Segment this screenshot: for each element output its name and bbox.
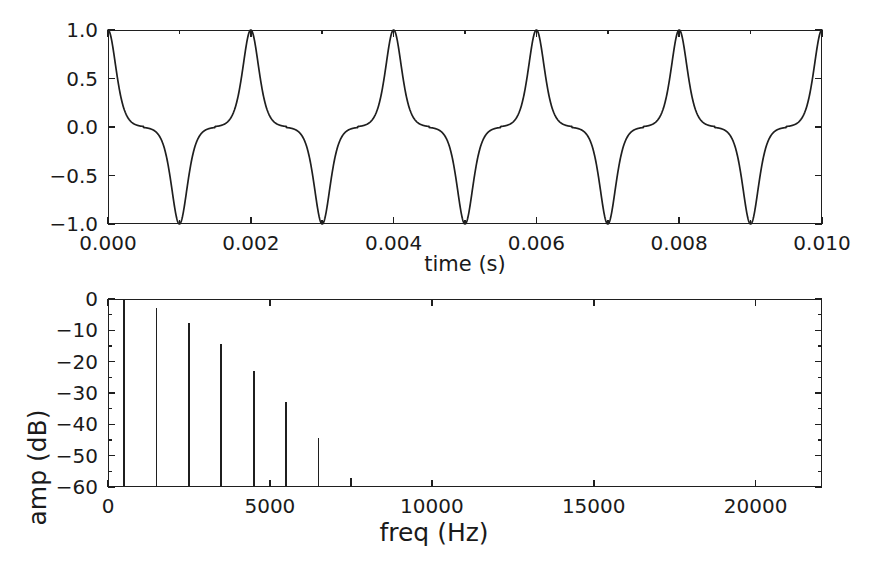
spectrum-ytick-minor-right <box>818 471 822 473</box>
waveform-xtick-minor <box>179 220 181 224</box>
spectrum-xtick-label: 5000 <box>244 496 295 516</box>
spectrum-x-axis-title: freq (Hz) <box>379 518 488 547</box>
figure-canvas: 0.0000.0020.0040.0060.0080.010−1.0−0.50.… <box>0 0 870 579</box>
spectrum-xtick-major <box>593 480 595 487</box>
spectrum-xtick-major-top <box>107 299 109 306</box>
waveform-xtick-major <box>393 217 395 224</box>
spectrum-ytick-major-right <box>815 330 822 332</box>
spectrum-xtick-major-top <box>755 299 757 306</box>
waveform-line-series <box>108 30 822 224</box>
waveform-xtick-minor-top <box>321 30 323 34</box>
waveform-xtick-minor-top <box>607 30 609 34</box>
waveform-ytick-major-right <box>815 29 822 31</box>
waveform-ytick-major-right <box>815 223 822 225</box>
waveform-axes <box>108 30 822 224</box>
spectrum-ytick-minor-right <box>818 314 822 316</box>
spectrum-ytick-major <box>108 298 115 300</box>
waveform-xtick-major-top <box>107 30 109 37</box>
waveform-ytick-label: 0.5 <box>14 69 98 89</box>
waveform-xtick-label: 0.000 <box>79 233 136 253</box>
waveform-ytick-major-right <box>815 126 822 128</box>
waveform-xtick-major <box>250 217 252 224</box>
waveform-xtick-major <box>678 217 680 224</box>
spectrum-ytick-major <box>108 424 115 426</box>
waveform-xtick-label: 0.008 <box>651 233 708 253</box>
spectrum-stem-series <box>108 299 822 487</box>
spectrum-ytick-minor-right <box>818 439 822 441</box>
waveform-xtick-major-top <box>821 30 823 37</box>
waveform-xtick-label: 0.010 <box>793 233 850 253</box>
spectrum-ytick-major <box>108 486 115 488</box>
spectrum-ytick-minor <box>108 408 112 410</box>
waveform-xtick-label: 0.002 <box>222 233 279 253</box>
spectrum-ytick-major-right <box>815 486 822 488</box>
spectrum-ytick-label: 0 <box>20 289 98 309</box>
waveform-xtick-major <box>536 217 538 224</box>
waveform-xtick-minor-top <box>750 30 752 34</box>
spectrum-xtick-major-top <box>269 299 271 306</box>
spectrum-xtick-major-top <box>593 299 595 306</box>
waveform-x-axis-title: time (s) <box>424 252 505 276</box>
spectrum-ytick-minor-right <box>818 377 822 379</box>
waveform-ytick-major <box>108 175 115 177</box>
waveform-ytick-major <box>108 126 115 128</box>
waveform-ytick-major-right <box>815 175 822 177</box>
spectrum-ytick-major-right <box>815 392 822 394</box>
waveform-ytick-major <box>108 223 115 225</box>
spectrum-ytick-major-right <box>815 424 822 426</box>
spectrum-xtick-major <box>755 480 757 487</box>
spectrum-xtick-label: 0 <box>102 496 115 516</box>
spectrum-ytick-major <box>108 361 115 363</box>
waveform-ytick-major <box>108 29 115 31</box>
waveform-xtick-major-top <box>678 30 680 37</box>
spectrum-ytick-minor-right <box>818 345 822 347</box>
spectrum-xtick-major <box>269 480 271 487</box>
waveform-xtick-major-top <box>393 30 395 37</box>
spectrum-y-axis-title: amp (dB) <box>23 398 52 538</box>
spectrum-xtick-major-top <box>431 299 433 306</box>
waveform-xtick-minor <box>321 220 323 224</box>
spectrum-ytick-minor <box>108 377 112 379</box>
spectrum-ytick-minor <box>108 471 112 473</box>
waveform-ytick-major <box>108 78 115 80</box>
spectrum-xtick-label: 10000 <box>400 496 464 516</box>
waveform-xtick-label: 0.006 <box>508 233 565 253</box>
spectrum-ytick-major-right <box>815 361 822 363</box>
spectrum-ytick-minor-right <box>818 408 822 410</box>
spectrum-xtick-label: 20000 <box>724 496 788 516</box>
waveform-ytick-label: 1.0 <box>14 20 98 40</box>
waveform-xtick-label: 0.004 <box>365 233 422 253</box>
spectrum-axes <box>108 299 822 487</box>
waveform-ytick-label: −1.0 <box>14 214 98 234</box>
waveform-xtick-minor <box>464 220 466 224</box>
spectrum-ytick-label: −10 <box>20 320 98 340</box>
spectrum-ytick-label: −20 <box>20 352 98 372</box>
spectrum-ytick-minor <box>108 314 112 316</box>
spectrum-ytick-minor <box>108 439 112 441</box>
waveform-xtick-major-top <box>536 30 538 37</box>
waveform-xtick-major-top <box>250 30 252 37</box>
spectrum-ytick-major <box>108 330 115 332</box>
spectrum-ytick-major-right <box>815 298 822 300</box>
waveform-xtick-minor-top <box>464 30 466 34</box>
waveform-ytick-major-right <box>815 78 822 80</box>
waveform-xtick-minor <box>607 220 609 224</box>
spectrum-xtick-major <box>431 480 433 487</box>
spectrum-ytick-major <box>108 455 115 457</box>
spectrum-ytick-major <box>108 392 115 394</box>
waveform-ytick-label: 0.0 <box>14 117 98 137</box>
waveform-xtick-minor-top <box>179 30 181 34</box>
spectrum-ytick-minor <box>108 345 112 347</box>
spectrum-ytick-major-right <box>815 455 822 457</box>
spectrum-xtick-label: 15000 <box>562 496 626 516</box>
waveform-xtick-minor <box>750 220 752 224</box>
waveform-ytick-label: −0.5 <box>14 166 98 186</box>
